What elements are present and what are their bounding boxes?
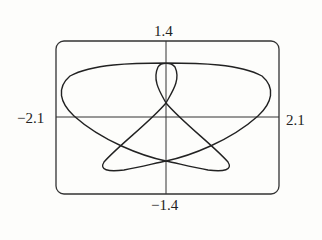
x-min-label: −2.1 bbox=[17, 111, 44, 126]
x-max-label: 2.1 bbox=[286, 113, 305, 128]
y-max-label: 1.4 bbox=[154, 24, 173, 39]
y-min-label: −1.4 bbox=[151, 198, 178, 213]
